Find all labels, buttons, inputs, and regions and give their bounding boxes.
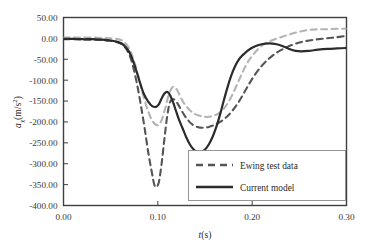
- y-tick-label: -300.00: [29, 159, 58, 169]
- figure-container: 50.000.00-50.00-100.00-150.00-200.00-250…: [0, 0, 371, 248]
- y-tick-label: 50.00: [37, 13, 58, 23]
- legend-label-current-model: Current model: [240, 183, 295, 193]
- y-tick-label: -250.00: [29, 138, 58, 148]
- y-tick-label: -350.00: [29, 180, 58, 190]
- y-axis-title-unit-close: ): [12, 96, 24, 99]
- x-tick-label: 0.20: [244, 212, 260, 222]
- x-axis-title-unit: (s): [201, 229, 211, 241]
- y-tick-label: -50.00: [34, 55, 58, 65]
- acceleration-time-line-chart: 50.000.00-50.00-100.00-150.00-200.00-250…: [0, 0, 371, 248]
- legend-label-ewing-test-data: Ewing test data: [240, 161, 299, 171]
- y-tick-label: -100.00: [29, 76, 58, 86]
- x-axis-title: t(s): [199, 229, 212, 241]
- y-tick-label: 0.00: [41, 34, 57, 44]
- x-tick-label: 0.00: [55, 212, 71, 222]
- legend-box: [189, 151, 346, 201]
- chart-legend: Ewing test data Current model: [189, 151, 346, 201]
- y-tick-label: -150.00: [29, 96, 58, 106]
- x-tick-label: 0.30: [338, 212, 354, 222]
- y-tick-label: -200.00: [29, 117, 58, 127]
- x-tick-label: 0.10: [150, 212, 166, 222]
- y-axis-title-unit: (m/s: [12, 103, 24, 120]
- y-tick-label: -400.00: [29, 201, 58, 211]
